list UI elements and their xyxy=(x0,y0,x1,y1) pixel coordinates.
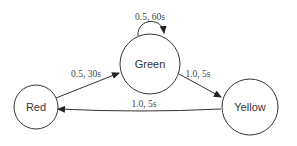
edge-label-yellow-to-red: 1.0, 5s xyxy=(131,99,156,109)
state-diagram: 0.5, 60s 0.5, 30s 1.0, 5s 1.0, 5s Red Gr… xyxy=(0,0,297,146)
state-label-green: Green xyxy=(135,58,166,70)
transition-yellow-to-red xyxy=(58,109,221,111)
state-green: Green xyxy=(120,34,180,94)
state-red: Red xyxy=(14,85,58,129)
edge-label-green-self: 0.5, 60s xyxy=(135,12,165,22)
edge-label-green-to-yellow: 1.0, 5s xyxy=(185,69,210,79)
state-label-red: Red xyxy=(26,101,46,113)
state-yellow: Yellow xyxy=(222,79,278,135)
edge-label-red-to-green: 0.5, 30s xyxy=(71,69,101,79)
state-label-yellow: Yellow xyxy=(234,101,265,113)
